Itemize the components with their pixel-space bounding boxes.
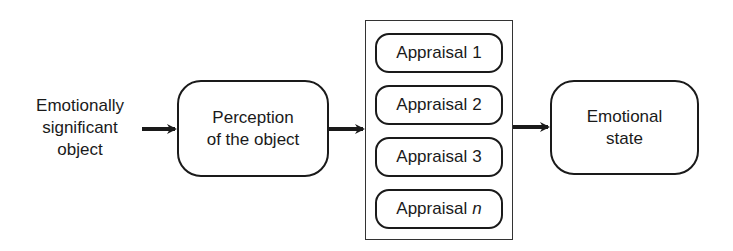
appraisal-n-index: n	[472, 199, 481, 219]
perception-line-2: of the object	[207, 129, 300, 151]
appraisal-node-n: Appraisaln	[375, 189, 503, 229]
appraisal-1-label: Appraisal	[396, 43, 467, 63]
appraisal-node-1: Appraisal1	[375, 33, 503, 73]
appraisal-1-index: 1	[472, 43, 481, 63]
appraisal-2-index: 2	[472, 95, 481, 115]
appraisal-node-3: Appraisal3	[375, 137, 503, 177]
source-label-line-2: significant	[20, 117, 140, 139]
appraisal-n-label: Appraisal	[396, 199, 467, 219]
emotional-state-line-2: state	[587, 128, 663, 150]
appraisal-3-index: 3	[472, 147, 481, 167]
perception-node: Perception of the object	[177, 80, 329, 177]
source-label-line-1: Emotionally	[20, 95, 140, 117]
appraisal-2-label: Appraisal	[396, 95, 467, 115]
source-object-label: Emotionally significant object	[20, 95, 140, 161]
perception-line-1: Perception	[207, 107, 300, 129]
appraisals-container: Appraisal1 Appraisal2 Appraisal3 Apprais…	[365, 20, 513, 240]
appraisal-3-label: Appraisal	[396, 147, 467, 167]
emotional-state-line-1: Emotional	[587, 106, 663, 128]
source-label-line-3: object	[20, 139, 140, 161]
appraisal-node-2: Appraisal2	[375, 85, 503, 125]
emotional-state-node: Emotional state	[550, 80, 699, 175]
